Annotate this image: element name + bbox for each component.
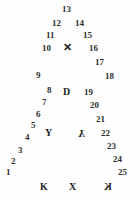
number-label-25: 25 [118, 168, 127, 177]
number-label-5: 5 [31, 121, 36, 130]
letter-d-glyph: D [63, 87, 70, 97]
letter-k-mirrored-glyph: K [104, 182, 112, 192]
number-label-11: 11 [46, 31, 55, 40]
letter-k-glyph: K [40, 182, 48, 192]
number-label-3: 3 [18, 146, 23, 155]
number-label-15: 15 [83, 31, 92, 40]
number-label-10: 10 [42, 44, 51, 53]
number-label-21: 21 [96, 115, 105, 124]
numbered-chevron-figure: 123456789101112 13 141516171819202122232… [0, 0, 140, 200]
number-label-2: 2 [11, 157, 16, 166]
number-label-17: 17 [95, 58, 104, 67]
number-label-9: 9 [36, 71, 41, 80]
letter-y-glyph: Y [45, 128, 52, 138]
number-label-19: 19 [84, 88, 93, 97]
number-label-13: 13 [62, 5, 71, 14]
number-label-1: 1 [6, 168, 11, 177]
number-label-22: 22 [101, 129, 110, 138]
number-label-16: 16 [89, 44, 98, 53]
number-label-8: 8 [47, 86, 52, 95]
number-label-7: 7 [42, 98, 47, 107]
letter-x-glyph: X [69, 182, 76, 192]
number-label-12: 12 [52, 19, 61, 28]
number-label-23: 23 [107, 142, 116, 151]
times-glyph: ✕ [63, 42, 72, 53]
number-label-20: 20 [90, 101, 99, 110]
letter-y-mirrored-glyph: Y [78, 128, 85, 138]
number-label-14: 14 [75, 19, 84, 28]
number-label-24: 24 [113, 155, 122, 164]
number-label-4: 4 [25, 133, 30, 142]
number-label-6: 6 [36, 110, 41, 119]
number-label-18: 18 [105, 72, 114, 81]
